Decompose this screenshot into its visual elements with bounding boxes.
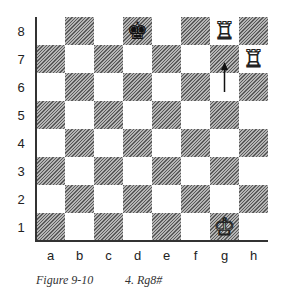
figure-caption: Figure 9-10	[36, 273, 93, 288]
file-label: e	[152, 248, 181, 263]
rank-label: 7	[14, 52, 28, 67]
rank-label: 3	[14, 164, 28, 179]
move-notation: 4. Rg8#	[125, 273, 162, 288]
rank-label: 5	[14, 108, 28, 123]
rank-label: 2	[14, 192, 28, 207]
rank-label: 8	[14, 24, 28, 39]
file-label: c	[94, 248, 123, 263]
file-label: g	[210, 248, 239, 263]
rank-label: 6	[14, 80, 28, 95]
move-arrow-icon	[36, 17, 268, 241]
rank-label: 1	[14, 220, 28, 235]
file-label: h	[239, 248, 268, 263]
file-label: d	[123, 248, 152, 263]
file-label: a	[36, 248, 65, 263]
file-label: b	[65, 248, 94, 263]
rank-label: 4	[14, 136, 28, 151]
file-label: f	[181, 248, 210, 263]
